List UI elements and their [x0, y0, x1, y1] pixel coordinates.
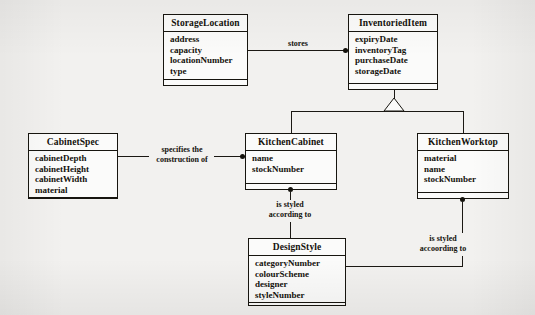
- attribute: purchaseDate: [355, 55, 437, 66]
- class-operations-inventoried-item: [349, 84, 437, 89]
- association-label-worktop-style: is styled accoording to: [404, 234, 482, 253]
- association-label-worktop-style-line2: accoording to: [404, 244, 482, 254]
- attribute: material: [424, 153, 508, 164]
- attribute: capacity: [170, 45, 247, 56]
- association-line-cabinet-style-upper: [290, 192, 291, 200]
- attribute: inventoryTag: [355, 45, 437, 56]
- generalization-stem: [394, 90, 395, 99]
- generalization-triangle-icon: [383, 98, 405, 112]
- generalization-branch-kitchen-worktop: [463, 111, 464, 133]
- class-box-storage-location[interactable]: StorageLocation address capacity locatio…: [163, 14, 248, 86]
- association-label-cabinet-style-line1: is styled: [254, 200, 326, 210]
- attribute: designer: [255, 279, 345, 290]
- association-label-cabinet-style: is styled according to: [254, 200, 326, 219]
- attribute: styleNumber: [255, 290, 345, 301]
- attribute: cabinetWidth: [35, 174, 117, 185]
- attribute: cabinetDepth: [35, 153, 117, 164]
- class-attributes-storage-location: address capacity locationNumber type: [164, 32, 247, 80]
- association-label-worktop-style-line1: is styled: [404, 234, 482, 244]
- attribute: stockNumber: [252, 164, 336, 175]
- association-line-worktop-style-horizontal: [346, 266, 463, 267]
- class-operations-cabinet-spec: [29, 198, 117, 203]
- attribute: name: [252, 153, 336, 164]
- class-name-cabinet-spec: CabinetSpec: [29, 134, 117, 151]
- association-line-worktop-style-vertical-lower: [462, 256, 463, 266]
- attribute: stockNumber: [424, 174, 508, 185]
- attribute: type: [170, 66, 247, 77]
- attribute: name: [424, 164, 508, 175]
- attribute: material: [35, 185, 117, 196]
- class-name-storage-location: StorageLocation: [164, 15, 247, 32]
- class-operations-storage-location: [164, 80, 247, 85]
- generalization-branch-kitchen-cabinet: [291, 111, 292, 133]
- class-box-cabinet-spec[interactable]: CabinetSpec cabinetDepth cabinetHeight c…: [28, 133, 118, 199]
- association-label-specifies-line1: specifies the: [146, 145, 218, 155]
- class-box-inventoried-item[interactable]: InventoriedItem expiryDate inventoryTag …: [348, 14, 438, 90]
- association-line-cabinet-style-lower: [290, 222, 291, 238]
- class-box-kitchen-worktop[interactable]: KitchenWorktop material name stockNumber: [417, 133, 509, 199]
- class-attributes-kitchen-cabinet: name stockNumber: [246, 151, 336, 184]
- attribute: expiryDate: [355, 34, 437, 45]
- class-attributes-inventoried-item: expiryDate inventoryTag purchaseDate sto…: [349, 32, 437, 84]
- association-label-stores: stores: [268, 39, 328, 49]
- association-label-specifies: specifies the construction of: [146, 145, 218, 164]
- association-line-stores: [248, 50, 348, 51]
- class-name-design-style: DesignStyle: [249, 239, 345, 256]
- association-label-specifies-line2: construction of: [146, 155, 218, 165]
- class-operations-design-style: [249, 303, 345, 308]
- class-box-kitchen-cabinet[interactable]: KitchenCabinet name stockNumber: [245, 133, 337, 190]
- attribute: address: [170, 34, 247, 45]
- class-name-kitchen-cabinet: KitchenCabinet: [246, 134, 336, 151]
- generalization-bus: [291, 111, 464, 112]
- attribute: colourScheme: [255, 269, 345, 280]
- class-name-inventoried-item: InventoriedItem: [349, 15, 437, 32]
- class-box-design-style[interactable]: DesignStyle categoryNumber colourScheme …: [248, 238, 346, 306]
- class-name-kitchen-worktop: KitchenWorktop: [418, 134, 508, 151]
- attribute: locationNumber: [170, 55, 247, 66]
- aggregation-dot-stores: [343, 48, 348, 53]
- aggregation-dot-specifies: [240, 154, 245, 159]
- attribute: categoryNumber: [255, 258, 345, 269]
- attribute: storageDate: [355, 66, 437, 77]
- class-attributes-cabinet-spec: cabinetDepth cabinetHeight cabinetWidth …: [29, 151, 117, 198]
- association-line-specifies-left: [118, 156, 149, 157]
- uml-class-diagram-canvas: StorageLocation address capacity locatio…: [0, 0, 535, 315]
- class-attributes-design-style: categoryNumber colourScheme designer sty…: [249, 256, 345, 303]
- attribute: cabinetHeight: [35, 164, 117, 175]
- association-line-worktop-style-vertical-upper: [462, 202, 463, 233]
- association-label-cabinet-style-line2: according to: [254, 210, 326, 220]
- class-attributes-kitchen-worktop: material name stockNumber: [418, 151, 508, 193]
